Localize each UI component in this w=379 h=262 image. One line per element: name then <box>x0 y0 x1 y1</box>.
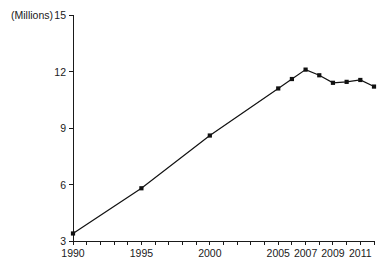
data-point-marker <box>317 73 321 77</box>
data-point-marker <box>331 81 335 85</box>
y-tick-label: 15 <box>54 9 66 21</box>
data-point-marker <box>358 78 362 82</box>
y-tick-label: 6 <box>60 179 66 191</box>
data-point-marker <box>276 86 280 90</box>
y-tick-label: 3 <box>60 235 66 247</box>
x-tick-label: 1990 <box>61 247 85 259</box>
data-point-marker <box>71 231 75 235</box>
x-tick-label: 1995 <box>130 247 154 259</box>
x-tick-label: 2005 <box>267 247 291 259</box>
line-chart: 3691215(Millions) 1990199520002005200720… <box>0 0 379 262</box>
x-tick-label: 2000 <box>198 247 222 259</box>
data-point-marker <box>139 186 143 190</box>
data-series <box>71 68 376 236</box>
y-axis-unit-label: (Millions) <box>11 9 53 21</box>
data-point-marker <box>208 133 212 137</box>
series-line <box>73 70 374 234</box>
x-tick-label: 2009 <box>321 247 345 259</box>
data-point-marker <box>290 77 294 81</box>
y-tick-label: 12 <box>54 66 66 78</box>
chart-canvas: 3691215(Millions) 1990199520002005200720… <box>0 0 379 262</box>
x-axis: 1990199520002005200720092011 <box>61 241 374 259</box>
y-tick-label: 9 <box>60 122 66 134</box>
y-axis: 3691215(Millions) <box>11 9 73 247</box>
data-point-marker <box>372 84 376 88</box>
x-tick-label: 2007 <box>294 247 318 259</box>
data-point-marker <box>345 80 349 84</box>
x-tick-label: 2011 <box>349 247 372 259</box>
data-point-marker <box>303 68 307 72</box>
